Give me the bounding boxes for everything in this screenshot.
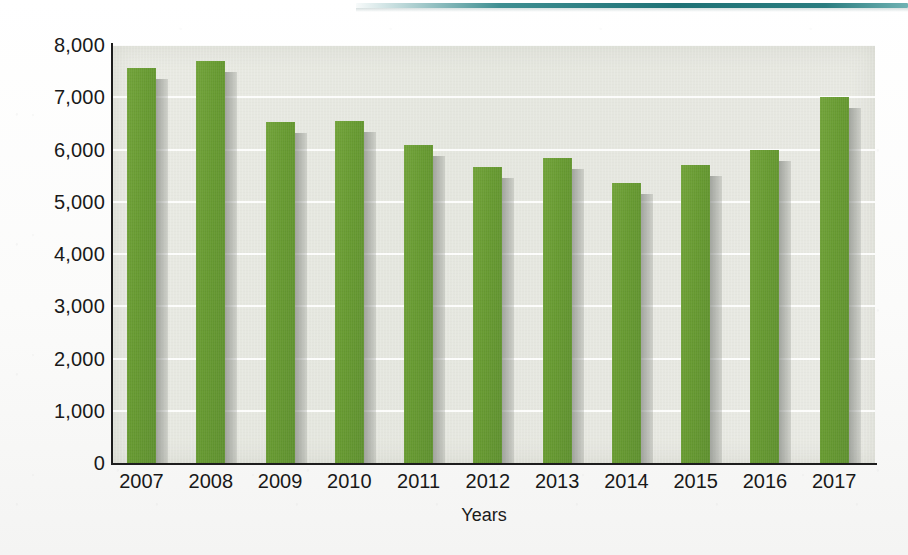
plot-area — [113, 45, 875, 463]
y-axis-tick-label: 4,000 — [5, 243, 105, 266]
x-axis-title: Years — [0, 505, 908, 526]
x-axis-tick-label: 2012 — [466, 470, 511, 493]
y-axis-tick-label: 1,000 — [5, 399, 105, 422]
y-axis-tick-label: 6,000 — [5, 138, 105, 161]
x-axis-tick-label: 2016 — [743, 470, 788, 493]
y-axis-tick-label: 3,000 — [5, 295, 105, 318]
bar-2016 — [750, 150, 779, 463]
bar-shadow — [641, 194, 653, 463]
bar-2008 — [196, 61, 225, 463]
x-axis-tick-label: 2008 — [189, 470, 234, 493]
x-axis-line — [111, 463, 877, 465]
y-axis-line — [111, 43, 113, 465]
y-axis-tick-label: 0 — [5, 452, 105, 475]
bar-shadow — [433, 156, 445, 463]
bar-2015 — [681, 165, 710, 463]
bar-2011 — [404, 145, 433, 463]
x-axis-tick-label: 2010 — [327, 470, 372, 493]
gridline — [113, 44, 875, 46]
bar-shadow — [572, 169, 584, 463]
y-axis-tick-labels: 01,0002,0003,0004,0005,0006,0007,0008,00… — [0, 0, 105, 555]
bar-shadow — [156, 79, 168, 463]
x-axis-tick-label: 2015 — [673, 470, 718, 493]
y-axis-tick-label: 7,000 — [5, 86, 105, 109]
bar-2009 — [266, 122, 295, 463]
y-axis-tick-label: 2,000 — [5, 347, 105, 370]
x-axis-tick-label: 2017 — [812, 470, 857, 493]
bar-2010 — [335, 121, 364, 463]
chart-page: 01,0002,0003,0004,0005,0006,0007,0008,00… — [0, 0, 908, 555]
x-axis-tick-label: 2007 — [119, 470, 164, 493]
x-axis-tick-label: 2011 — [397, 470, 440, 493]
bar-2013 — [543, 158, 572, 463]
bar-shadow — [779, 161, 791, 463]
bar-shadow — [364, 132, 376, 463]
bar-shadow — [849, 108, 861, 463]
y-axis-tick-label: 8,000 — [5, 34, 105, 57]
bar-shadow — [295, 133, 307, 463]
page-edge-shadow — [356, 8, 908, 12]
bar-2012 — [473, 167, 502, 463]
bar-2007 — [127, 68, 156, 463]
bar-shadow — [225, 72, 237, 463]
x-axis-tick-label: 2014 — [604, 470, 649, 493]
bar-2017 — [820, 97, 849, 463]
bar-2014 — [612, 183, 641, 463]
bar-shadow — [710, 176, 722, 463]
y-axis-tick-label: 5,000 — [5, 190, 105, 213]
x-axis-tick-label: 2009 — [258, 470, 303, 493]
x-axis-title-text: Years — [401, 505, 506, 525]
x-axis-tick-label: 2013 — [535, 470, 580, 493]
bar-shadow — [502, 178, 514, 463]
